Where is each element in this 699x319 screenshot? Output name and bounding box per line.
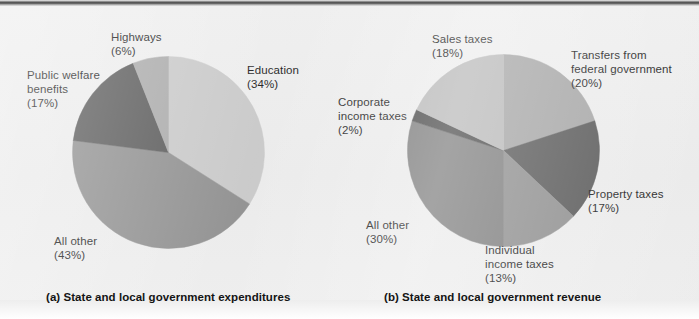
label-all-other-revenue: All other (30%) — [366, 218, 409, 246]
label-corporate-income-taxes: Corporate income taxes (2%) — [338, 95, 407, 138]
label-transfers-from-federal-government: Transfers from federal government (20%) — [571, 48, 672, 91]
label-individual-income-taxes: Individual income taxes (13%) — [485, 243, 554, 286]
pie-expenditures-svg — [72, 56, 265, 249]
caption-revenue: (b) State and local government revenue — [384, 291, 601, 303]
pie-chart-expenditures — [72, 56, 265, 249]
label-all-other-expenditures: All other (43%) — [54, 234, 97, 262]
label-public-welfare-benefits: Public welfare benefits (17%) — [27, 68, 100, 111]
pie-chart-figure: Highways (6%) Education (34%) Public wel… — [0, 0, 699, 319]
label-sales-taxes: Sales taxes (18%) — [432, 32, 493, 60]
label-property-taxes: Property taxes (17%) — [588, 187, 664, 215]
label-highways: Highways (6%) — [111, 30, 162, 58]
label-education: Education (34%) — [247, 63, 299, 91]
caption-expenditures: (a) State and local government expenditu… — [46, 291, 290, 303]
